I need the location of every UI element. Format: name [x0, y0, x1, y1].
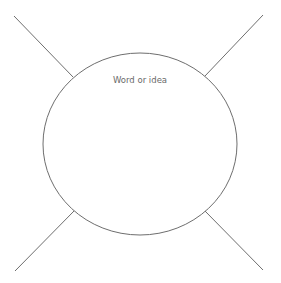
- leg-top-left: [14, 16, 73, 77]
- center-label: Word or idea: [113, 75, 167, 85]
- leg-bottom-left: [15, 211, 74, 271]
- leg-bottom-right: [205, 211, 263, 270]
- spider-map-diagram: Word or idea: [0, 0, 281, 283]
- leg-top-right: [205, 15, 263, 76]
